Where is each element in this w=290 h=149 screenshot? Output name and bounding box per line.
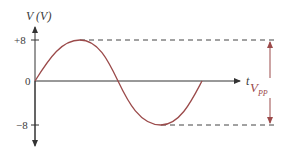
tick-label-neg: −8 [16, 119, 28, 131]
tick-label-pos: +8 [14, 34, 26, 46]
sine-wave-figure: VPP V (V) +8 0 −8 t [0, 0, 290, 149]
y-axis-label: V (V) [26, 9, 51, 23]
sine-curve [35, 40, 202, 125]
tick-label-zero: 0 [25, 75, 31, 87]
vpp-label: VPP [250, 80, 268, 98]
y-axis [31, 27, 39, 146]
vpp-annotation: VPP [250, 42, 270, 123]
